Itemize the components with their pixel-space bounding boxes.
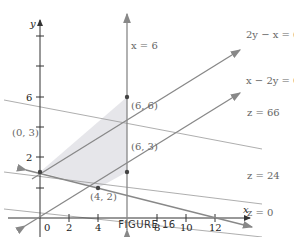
- chart: 0 2 4 8 10 12 2 6 x y x = 6 2y − x = 6 x…: [0, 0, 294, 237]
- label-point-4-2: (4, 2): [90, 191, 117, 202]
- figure: 0 2 4 8 10 12 2 6 x y x = 6 2y − x = 6 x…: [0, 0, 294, 237]
- label-2y-minus-x: 2y − x = 6: [246, 29, 294, 40]
- label-z24: z = 24: [247, 170, 280, 181]
- label-point-6-6: (6, 6): [131, 100, 158, 111]
- label-z66: z = 66: [247, 107, 280, 118]
- label-point-6-3: (6, 3): [131, 141, 158, 152]
- y-axis-label: y: [29, 18, 36, 29]
- line-2y-minus-x-eq-6: [32, 50, 240, 179]
- tick-y-6: 6: [26, 92, 32, 103]
- label-point-0-3: (0, 3): [12, 127, 39, 138]
- label-x-minus-2y: x − 2y = 0: [246, 75, 294, 86]
- tick-y-2: 2: [26, 152, 32, 163]
- feasible-region: [40, 97, 127, 188]
- figure-caption: FIGURE 16: [0, 219, 294, 230]
- label-z0: z = 0: [247, 207, 273, 218]
- label-x-eq-6: x = 6: [131, 40, 158, 51]
